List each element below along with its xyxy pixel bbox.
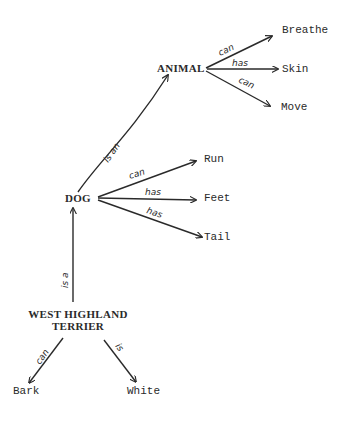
label-dog-feet: has xyxy=(145,187,161,197)
edge-dog-feet xyxy=(98,198,196,200)
edge-dog-animal xyxy=(78,75,168,192)
node-westie-line1: WEST HIGHLAND xyxy=(28,308,128,320)
node-move: Move xyxy=(281,101,307,113)
semantic-network-diagram: can has can is an can has has is a can i… xyxy=(0,0,358,423)
label-animal-move: can xyxy=(237,75,256,91)
node-tail: Tail xyxy=(204,231,230,243)
edge-animal-move xyxy=(206,71,270,106)
node-run: Run xyxy=(204,153,224,165)
node-skin: Skin xyxy=(282,63,308,75)
node-bark: Bark xyxy=(13,385,39,397)
node-westie-line2: TERRIER xyxy=(28,320,128,332)
label-westie-dog: is a xyxy=(60,272,70,288)
node-white: White xyxy=(127,385,160,397)
node-dog: DOG xyxy=(65,192,91,204)
node-animal: ANIMAL xyxy=(157,62,205,74)
label-dog-animal: is an xyxy=(101,141,122,164)
node-west-highland-terrier: WEST HIGHLAND TERRIER xyxy=(28,308,128,332)
label-dog-run: can xyxy=(128,166,147,181)
label-animal-skin: has xyxy=(232,58,248,68)
node-breathe: Breathe xyxy=(282,24,328,36)
label-westie-white: is xyxy=(113,341,125,353)
node-feet: Feet xyxy=(204,192,230,204)
